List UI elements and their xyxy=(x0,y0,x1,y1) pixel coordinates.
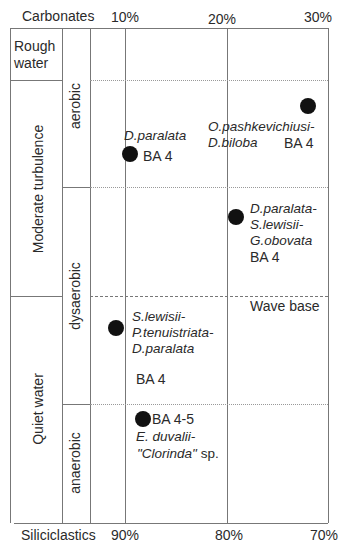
gridline-20pct xyxy=(227,28,228,523)
wave-base-line xyxy=(90,296,328,297)
assemblage-3-taxa-2: S.lewisii- xyxy=(250,217,303,233)
assemblage-4-taxa-1: S.lewisii- xyxy=(132,309,185,325)
dysaerobic-anaerobic-divider xyxy=(62,404,90,405)
top-tick-30: 30% xyxy=(304,9,332,25)
data-point-d-paralata-s-lewisii xyxy=(228,209,244,225)
bottom-tick-90: 90% xyxy=(111,527,139,543)
oxygen-column-divider xyxy=(90,28,91,523)
aerobic-dysaerobic-divider xyxy=(62,187,90,188)
assemblage-4-taxa-3: D.paralata xyxy=(132,341,194,357)
data-point-s-lewisii-p-tenuistriata xyxy=(108,320,124,336)
bottom-tick-70: 70% xyxy=(310,527,338,543)
moderate-quiet-divider xyxy=(10,296,62,297)
top-axis-label: Carbonates xyxy=(22,8,94,24)
zone-label-quiet-water: Quiet water xyxy=(30,356,48,462)
assemblage-1-ba: BA 4 xyxy=(143,148,173,164)
aerobic-boundary-dotted xyxy=(90,187,328,188)
bottom-border xyxy=(14,523,328,524)
rough-moderate-divider xyxy=(10,80,62,81)
data-point-e-duvalii xyxy=(135,411,151,427)
assemblage-4-taxa-2: P.tenuistriata- xyxy=(132,325,214,341)
assemblage-5-taxa-2-row: "Clorinda" sp. xyxy=(137,446,219,462)
assemblage-2-taxa-2: D.biloba xyxy=(208,135,258,151)
zone-label-rough-water: Rough water xyxy=(14,38,55,72)
gridline-10pct xyxy=(125,28,126,523)
assemblage-4-ba: BA 4 xyxy=(136,371,166,387)
zone-label-dysaerobic: dysaerobic xyxy=(67,256,85,336)
assemblage-3-taxa-3: G.obovata xyxy=(250,233,312,249)
assemblage-2-ba: BA 4 xyxy=(284,135,314,151)
energy-column-divider xyxy=(62,28,63,523)
rough-line-1: Rough xyxy=(14,38,55,55)
bottom-tick-80: 80% xyxy=(215,527,243,543)
assemblage-2-taxa-1: O.pashkevichiusi- xyxy=(208,119,315,135)
rough-line-2: water xyxy=(14,55,55,72)
assemblage-3-taxa-1: D.paralata- xyxy=(250,201,317,217)
assemblage-5-ba: BA 4-5 xyxy=(152,411,194,427)
anaerobic-boundary-dotted xyxy=(90,404,328,405)
left-border xyxy=(10,28,11,523)
top-tick-20: 20% xyxy=(208,11,236,27)
assemblage-5-taxa-2: "Clorinda" xyxy=(137,446,197,461)
data-point-o-pashkevichiusi xyxy=(300,98,316,114)
wave-base-label: Wave base xyxy=(250,298,320,314)
bottom-axis-label: Siliciclastics xyxy=(21,527,96,543)
zone-label-anaerobic: anaerobic xyxy=(67,425,85,501)
zone-label-aerobic: aerobic xyxy=(67,76,85,136)
gridline-30pct xyxy=(328,28,329,523)
top-border xyxy=(10,28,328,29)
rough-boundary-dotted xyxy=(90,80,328,81)
assemblage-5-suffix: sp. xyxy=(197,446,219,461)
top-tick-10: 10% xyxy=(111,9,139,25)
assemblage-1-taxa: D.paralata xyxy=(124,128,186,144)
data-point-d-paralata xyxy=(122,146,138,162)
zone-label-moderate-turbulence: Moderate turbulence xyxy=(30,109,48,269)
assemblage-3-ba: BA 4 xyxy=(250,249,280,265)
assemblage-5-taxa-1: E. duvalii- xyxy=(136,429,195,445)
